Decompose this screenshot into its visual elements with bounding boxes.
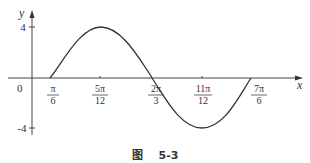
fraction-denominator: 6 [257, 95, 262, 106]
caption-number: 5-3 [159, 149, 179, 162]
fraction-denominator: 12 [198, 95, 208, 106]
fraction-denominator: 6 [51, 95, 56, 106]
fraction-numerator: π [50, 83, 55, 94]
fraction-numerator: 2π [151, 83, 161, 94]
origin-label: 0 [17, 82, 23, 94]
sine-chart: y x 0 4 -4 π 6 5π 12 2π 3 11π 12 7π 6 [0, 0, 310, 163]
x-tick-label-7pi6: 7π 6 [251, 83, 267, 106]
x-axis-label: x [296, 78, 303, 92]
y-tick-label-neg4: -4 [17, 122, 27, 134]
figure-caption: 图5-3 [0, 146, 310, 162]
x-tick-label-pi6: π 6 [47, 83, 59, 106]
fraction-numerator: 7π [254, 83, 264, 94]
fraction-numerator: 11π [196, 83, 211, 94]
fraction-numerator: 5π [95, 83, 105, 94]
fraction-denominator: 12 [95, 95, 105, 106]
y-axis-arrow-icon [30, 10, 35, 18]
x-tick-label-5pi12: 5π 12 [92, 83, 108, 106]
fraction-denominator: 3 [154, 95, 159, 106]
y-tick-label-4: 4 [20, 21, 26, 33]
x-tick-label-2pi3: 2π 3 [148, 83, 164, 106]
x-tick-label-11pi12: 11π 12 [194, 83, 212, 106]
caption-prefix: 图 [132, 149, 143, 162]
y-axis-label: y [18, 6, 25, 20]
